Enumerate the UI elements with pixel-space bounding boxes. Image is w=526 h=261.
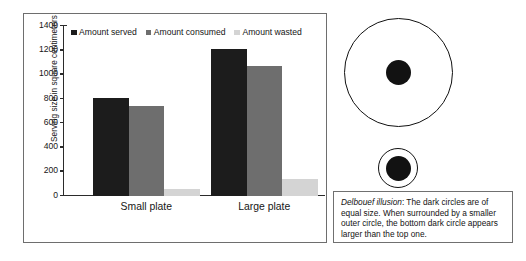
bar bbox=[164, 189, 200, 196]
y-tick-mark bbox=[60, 98, 64, 99]
bar bbox=[211, 49, 247, 196]
y-tick-mark bbox=[60, 122, 64, 123]
y-tick-mark bbox=[60, 73, 64, 74]
delboeuf-illusion-figure bbox=[333, 8, 513, 186]
small-outer-circle bbox=[378, 148, 418, 188]
y-tick-label: 0 bbox=[53, 190, 58, 199]
legend-entry: Amount consumed bbox=[146, 28, 226, 37]
y-tick-label: 1200 bbox=[39, 45, 58, 54]
y-axis-cap-top bbox=[63, 25, 67, 26]
x-axis-label: Large plate bbox=[211, 201, 318, 212]
y-tick-mark bbox=[60, 170, 64, 171]
y-tick-mark bbox=[60, 25, 64, 26]
legend-swatch-icon bbox=[234, 30, 240, 36]
y-tick-mark bbox=[60, 49, 64, 50]
y-tick-mark bbox=[60, 195, 64, 196]
plot-area: 0200400600800100012001400 Amount servedA… bbox=[63, 25, 325, 196]
legend-swatch-icon bbox=[71, 30, 77, 36]
bar bbox=[247, 66, 283, 196]
caption-text: Delbouef illusion: The dark circles are … bbox=[341, 197, 505, 239]
caption-term: Delbouef illusion bbox=[341, 197, 402, 207]
y-tick-mark bbox=[60, 146, 64, 147]
bar bbox=[93, 98, 129, 196]
chart-legend: Amount servedAmount consumedAmount waste… bbox=[71, 28, 302, 37]
legend-label: Amount served bbox=[79, 28, 137, 37]
bar bbox=[282, 179, 318, 196]
bottom-dark-circle bbox=[386, 156, 411, 181]
bar-chart-panel: Serving size in square centimeters 02004… bbox=[23, 13, 327, 243]
caption-box: Delbouef illusion: The dark circles are … bbox=[333, 191, 513, 243]
y-tick-label: 400 bbox=[44, 142, 58, 151]
y-tick-label: 800 bbox=[44, 93, 58, 102]
legend-label: Amount consumed bbox=[154, 28, 226, 37]
legend-entry: Amount served bbox=[71, 28, 137, 37]
bar bbox=[129, 106, 165, 196]
y-tick-label: 1000 bbox=[39, 69, 58, 78]
y-tick-label: 200 bbox=[44, 166, 58, 175]
y-tick-label: 600 bbox=[44, 118, 58, 127]
y-tick-label: 1400 bbox=[39, 21, 58, 30]
x-axis-label: Small plate bbox=[93, 201, 200, 212]
large-outer-circle bbox=[344, 18, 453, 127]
legend-swatch-icon bbox=[146, 30, 152, 36]
top-dark-circle bbox=[386, 60, 411, 85]
legend-entry: Amount wasted bbox=[234, 28, 301, 37]
legend-label: Amount wasted bbox=[242, 28, 301, 37]
